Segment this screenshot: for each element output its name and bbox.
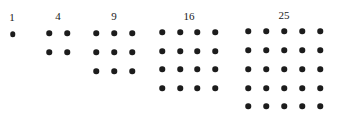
dot	[299, 47, 305, 53]
dot	[212, 48, 218, 54]
dot	[111, 68, 117, 74]
dot	[317, 66, 323, 72]
dot	[281, 47, 287, 53]
dot	[245, 66, 251, 72]
dot	[263, 85, 269, 91]
dot	[46, 49, 52, 55]
dot	[177, 29, 183, 35]
dot	[245, 28, 251, 34]
group-label: 4	[55, 11, 61, 22]
dot	[263, 66, 269, 72]
dot	[299, 85, 305, 91]
dot	[129, 68, 135, 74]
dot	[111, 49, 117, 55]
dot	[299, 66, 305, 72]
dot	[111, 30, 117, 36]
dot	[263, 103, 269, 109]
dot	[194, 48, 200, 54]
dot	[212, 66, 218, 72]
dot	[64, 30, 70, 36]
dot	[194, 85, 200, 91]
dot	[317, 28, 323, 34]
dot	[10, 31, 16, 37]
dot	[245, 85, 251, 91]
dot	[93, 68, 99, 74]
dot	[317, 85, 323, 91]
dot	[281, 85, 287, 91]
dot	[281, 103, 287, 109]
dot	[281, 66, 287, 72]
dot	[93, 49, 99, 55]
dot	[129, 49, 135, 55]
dot	[93, 30, 99, 36]
group-label: 16	[184, 11, 195, 22]
dot	[317, 47, 323, 53]
dot	[263, 47, 269, 53]
dot	[263, 28, 269, 34]
dot	[194, 29, 200, 35]
dot	[64, 49, 70, 55]
dot	[212, 85, 218, 91]
dot	[159, 48, 165, 54]
dot	[129, 30, 135, 36]
dot	[299, 28, 305, 34]
group-label: 1	[9, 12, 15, 23]
dot	[177, 85, 183, 91]
square-numbers-diagram: 1491625	[0, 0, 337, 114]
group-label: 9	[111, 11, 117, 22]
dot	[299, 103, 305, 109]
dot	[159, 29, 165, 35]
dot	[281, 28, 287, 34]
dot	[194, 66, 200, 72]
dot	[245, 103, 251, 109]
dot	[177, 48, 183, 54]
dot	[159, 85, 165, 91]
dot	[159, 66, 165, 72]
dot	[212, 29, 218, 35]
group-label: 25	[279, 10, 290, 21]
dot	[245, 47, 251, 53]
dot	[317, 103, 323, 109]
dot	[46, 30, 52, 36]
dot	[177, 66, 183, 72]
